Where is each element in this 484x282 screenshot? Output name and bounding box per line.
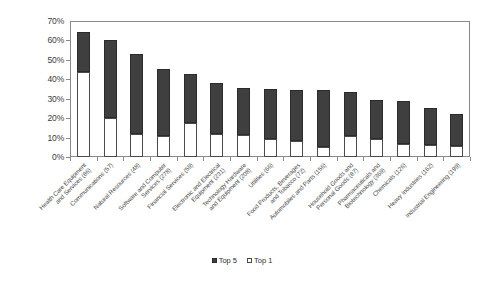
category-label-line: and Services (86): [43, 167, 92, 216]
category-label-line: Heavy Industries (162): [387, 162, 435, 210]
category-label-line: Personal Goods (87): [312, 167, 360, 215]
x-axis-ticks: [70, 157, 470, 161]
bar-segment-top1: [317, 147, 330, 157]
bar-segment-top1: [344, 136, 357, 157]
bar-segment-top5: [157, 69, 170, 136]
bar-segment-top1: [77, 72, 90, 157]
bar-segment-top1: [397, 144, 410, 157]
bar-segment-top1: [184, 123, 197, 157]
bar-segment-top5: [450, 114, 463, 146]
bar-group: [424, 21, 437, 157]
bar-segment-top5: [210, 83, 223, 134]
category-label-line: Equipment (231): [176, 167, 226, 217]
x-axis-tick-mark: [70, 157, 71, 161]
bar-segment-top1: [237, 135, 250, 157]
y-axis: 70%60%50%40%30%20%10%0%: [0, 21, 64, 157]
bar-group: [210, 21, 223, 157]
bar-segment-top1: [290, 141, 303, 157]
bar-segment-top1: [424, 145, 437, 157]
bar-group: [317, 21, 330, 157]
category-label-line: and Equipment (208): [206, 167, 252, 213]
bar-group: [397, 21, 410, 157]
bar-group: [157, 21, 170, 157]
bar-group: [237, 21, 250, 157]
legend-label: Top 5: [219, 256, 237, 265]
y-axis-tick-label: 20%: [0, 114, 64, 122]
category-label-line: Software and Computer: [118, 162, 168, 212]
stacked-bar-chart: 70%60%50%40%30%20%10%0% Health Care Equi…: [0, 0, 484, 282]
bar-segment-top5: [317, 90, 330, 147]
category-label-line: Natural Resources (48): [92, 162, 141, 211]
bar-group: [370, 21, 383, 157]
category-label-line: Biotechnology (369): [341, 167, 386, 212]
category-label-line: Electronic and Electrical: [171, 162, 221, 212]
category-label-line: Financial Services (59): [146, 162, 194, 210]
category-label-line: Chemicals (126): [372, 162, 408, 198]
x-axis-tick-mark: [230, 157, 231, 161]
legend-item: Top 5: [212, 256, 237, 265]
bar-segment-top1: [264, 139, 277, 157]
bar-segment-top1: [157, 136, 170, 157]
y-axis-tick-label: 30%: [0, 95, 64, 103]
y-axis-tick-label: 60%: [0, 36, 64, 44]
bar-segment-top1: [210, 134, 223, 157]
category-label-line: Automobiles and Parts (156): [269, 162, 328, 221]
bar-group: [264, 21, 277, 157]
bar-segment-top5: [344, 92, 357, 136]
x-axis-tick-mark: [337, 157, 338, 161]
x-axis-tick-mark: [363, 157, 364, 161]
x-axis-tick-mark: [310, 157, 311, 161]
bar-segment-top5: [237, 88, 250, 135]
bar-segment-top1: [104, 118, 117, 157]
bar-segment-top5: [77, 32, 90, 72]
category-label-line: Household Goods and: [307, 162, 355, 210]
x-axis-tick-mark: [443, 157, 444, 161]
x-axis-tick-mark: [417, 157, 418, 161]
bar-segment-top5: [130, 54, 143, 134]
x-axis-tick-mark: [283, 157, 284, 161]
category-label-line: Services (278): [123, 167, 173, 217]
bar-segment-top1: [450, 146, 463, 157]
legend-swatch-top-1: [247, 258, 252, 263]
bar-group: [450, 21, 463, 157]
category-label-line: Pharmaceuticals and: [336, 162, 381, 207]
category-label-line: Industrial Engineering (199): [404, 162, 461, 219]
bar-segment-top5: [264, 89, 277, 139]
bar-group: [290, 21, 303, 157]
y-axis-tick-label: 10%: [0, 134, 64, 142]
y-axis-tick-label: 50%: [0, 56, 64, 64]
x-axis-tick-mark: [257, 157, 258, 161]
legend-item: Top 1: [247, 256, 272, 265]
y-axis-tick-label: 0%: [0, 153, 64, 161]
x-axis-tick-mark: [97, 157, 98, 161]
category-label-line: Technology Hardware: [202, 162, 248, 208]
category-label-line: Communications (57): [69, 162, 115, 208]
bar-segment-top1: [370, 139, 383, 157]
category-label-line: Utilities (66): [247, 162, 274, 189]
bar-segment-top5: [104, 40, 117, 118]
category-label-line: and Tobacco (72): [250, 167, 306, 223]
bar-group: [77, 21, 90, 157]
bar-segment-top5: [370, 100, 383, 139]
bar-group: [130, 21, 143, 157]
x-axis-tick-mark: [203, 157, 204, 161]
bar-group: [104, 21, 117, 157]
bar-segment-top5: [290, 90, 303, 141]
y-axis-tick-label: 40%: [0, 75, 64, 83]
x-axis-tick-mark: [150, 157, 151, 161]
chart-legend: Top 5Top 1: [0, 255, 484, 265]
category-label-line: Health Care Equipment: [39, 162, 88, 211]
x-axis-tick-mark: [470, 157, 471, 161]
bar-group: [344, 21, 357, 157]
bars-layer: [70, 21, 470, 157]
category-label-line: Food Products, Beverages: [246, 162, 302, 218]
legend-swatch-top-5: [212, 258, 217, 263]
legend-label: Top 1: [254, 256, 272, 265]
bar-segment-top5: [184, 74, 197, 123]
x-axis-tick-mark: [177, 157, 178, 161]
x-axis-tick-mark: [123, 157, 124, 161]
bar-group: [184, 21, 197, 157]
x-axis-tick-mark: [390, 157, 391, 161]
y-axis-tick-label: 70%: [0, 17, 64, 25]
bar-segment-top5: [397, 101, 410, 145]
